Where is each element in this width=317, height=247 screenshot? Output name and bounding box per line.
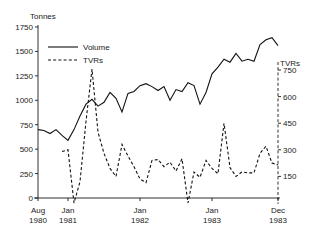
left-axis-tick-label: 750 xyxy=(20,121,34,130)
left-axis-tick-label: 0 xyxy=(29,194,34,203)
right-axis-tick-label: 450 xyxy=(283,119,297,128)
series-line-tvrs xyxy=(62,69,278,203)
right-axis-tick-label: 750 xyxy=(283,66,297,75)
x-axis-tick-label-year: 1981 xyxy=(59,216,77,225)
right-axis-tick-label: 600 xyxy=(283,93,297,102)
legend-label-tvrs: TVRs xyxy=(83,56,103,65)
x-axis-tick-label: Aug xyxy=(31,206,45,215)
right-axis: 150300450600750 xyxy=(278,62,297,204)
x-axis-tick-label-year: 1983 xyxy=(269,216,287,225)
legend-label-volume: Volume xyxy=(83,43,110,52)
x-axis-tick-label: Jan xyxy=(206,206,219,215)
left-axis: 02505007501000125015001750 xyxy=(15,23,38,203)
right-axis-tick-label: 300 xyxy=(283,146,297,155)
chart-container: Tonnes TVRs 02505007501000125015001750 1… xyxy=(0,0,317,247)
left-axis-tick-label: 1750 xyxy=(15,23,33,32)
x-axis-tick-label: Dec xyxy=(271,206,285,215)
dual-axis-line-chart: Tonnes TVRs 02505007501000125015001750 1… xyxy=(0,0,317,247)
x-axis-tick-label-year: 1983 xyxy=(203,216,221,225)
chart-legend: Volume TVRs xyxy=(48,43,110,65)
left-axis-tick-label: 1250 xyxy=(15,72,33,81)
left-axis-tick-label: 500 xyxy=(20,145,34,154)
series-line-volume xyxy=(38,38,278,141)
left-axis-tick-label: 250 xyxy=(20,170,34,179)
y-axis-title: Tonnes xyxy=(30,12,56,21)
left-axis-tick-label: 1500 xyxy=(15,47,33,56)
x-axis-tick-label: Jan xyxy=(134,206,147,215)
right-axis-tick-label: 150 xyxy=(283,172,297,181)
x-axis-tick-label-year: 1980 xyxy=(29,216,47,225)
x-axis: Aug1980Jan1981Jan1982Jan1983Dec1983 xyxy=(29,198,287,225)
x-axis-tick-label: Jan xyxy=(62,206,75,215)
x-axis-tick-label-year: 1982 xyxy=(131,216,149,225)
left-axis-tick-label: 1000 xyxy=(15,96,33,105)
series-segment-tvrs xyxy=(62,69,278,203)
